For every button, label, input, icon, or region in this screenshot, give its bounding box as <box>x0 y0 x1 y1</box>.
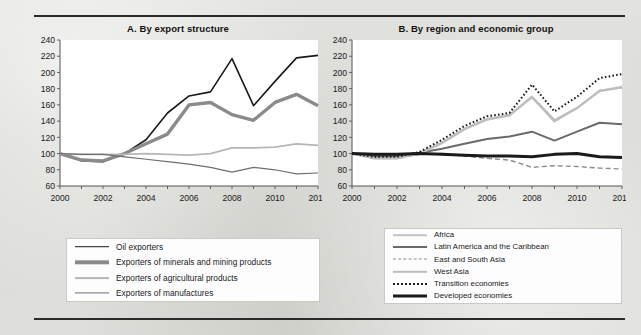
legend-line-swatch <box>75 257 109 267</box>
svg-text:200: 200 <box>41 68 56 78</box>
svg-text:2010: 2010 <box>265 193 284 203</box>
svg-text:200: 200 <box>333 68 348 78</box>
svg-text:2002: 2002 <box>93 193 112 203</box>
svg-text:180: 180 <box>41 84 56 94</box>
panel-a-plot: 6080100120140160180200220240200020022004… <box>34 36 322 216</box>
svg-text:2002: 2002 <box>387 193 406 203</box>
panel-b-legend: AfricaLatin America and the CaribbeanEas… <box>384 228 622 304</box>
chart-panel-a: A. By export structure 60801001201401601… <box>34 22 322 222</box>
svg-text:160: 160 <box>41 100 56 110</box>
legend-label: Transition economies <box>434 280 509 288</box>
svg-text:80: 80 <box>45 165 55 175</box>
svg-text:2006: 2006 <box>179 193 198 203</box>
chart-panel-b: B. By region and economic group 60801001… <box>326 22 626 222</box>
svg-text:120: 120 <box>333 133 348 143</box>
legend-label: West Asia <box>434 268 469 276</box>
svg-text:2012: 2012 <box>612 193 626 203</box>
legend-label: Exporters of minerals and mining product… <box>116 258 271 266</box>
legend-label: Exporters of agricultural products <box>116 274 238 282</box>
svg-text:140: 140 <box>41 116 56 126</box>
svg-text:2004: 2004 <box>136 193 155 203</box>
legend-line-swatch <box>393 279 427 289</box>
svg-text:2008: 2008 <box>522 193 541 203</box>
svg-text:180: 180 <box>333 84 348 94</box>
svg-text:2006: 2006 <box>477 193 496 203</box>
legend-label: Oil exporters <box>116 243 163 251</box>
top-rule <box>34 15 625 17</box>
legend-line-swatch <box>75 273 109 283</box>
panel-a-legend-item: Oil exporters <box>67 239 319 255</box>
svg-text:2010: 2010 <box>567 193 586 203</box>
legend-label: Developed economies <box>434 292 512 300</box>
svg-text:100: 100 <box>41 149 56 159</box>
panel-b-title: B. By region and economic group <box>326 22 626 36</box>
legend-label: Latin America and the Caribbean <box>434 243 549 251</box>
panel-b-plot: 6080100120140160180200220240200020022004… <box>326 36 626 216</box>
svg-text:240: 240 <box>41 36 56 45</box>
svg-text:220: 220 <box>41 51 56 61</box>
svg-text:2000: 2000 <box>342 193 361 203</box>
legend-line-swatch <box>75 288 109 298</box>
svg-text:80: 80 <box>337 165 347 175</box>
svg-text:2008: 2008 <box>222 193 241 203</box>
panel-b-legend-item: East and South Asia <box>385 253 621 265</box>
panel-a-legend-item: Exporters of manufactures <box>67 286 319 302</box>
svg-text:2012: 2012 <box>308 193 322 203</box>
svg-text:220: 220 <box>333 51 348 61</box>
legend-line-swatch <box>393 230 427 240</box>
svg-text:160: 160 <box>333 100 348 110</box>
panel-a-legend-item: Exporters of minerals and mining product… <box>67 255 319 271</box>
panel-b-legend-item: Latin America and the Caribbean <box>385 241 621 253</box>
svg-text:240: 240 <box>333 36 348 45</box>
legend-label: East and South Asia <box>434 256 505 264</box>
panel-b-legend-item: Africa <box>385 229 621 241</box>
svg-text:2004: 2004 <box>432 193 451 203</box>
panel-a-svg: 6080100120140160180200220240200020022004… <box>34 36 322 216</box>
svg-text:60: 60 <box>45 181 55 191</box>
legend-line-swatch <box>393 291 427 301</box>
legend-label: Africa <box>434 231 454 239</box>
svg-text:60: 60 <box>337 181 347 191</box>
legend-line-swatch <box>75 242 109 252</box>
panel-b-svg: 6080100120140160180200220240200020022004… <box>326 36 626 216</box>
panel-a-legend-item: Exporters of agricultural products <box>67 270 319 286</box>
legend-line-swatch <box>393 254 427 264</box>
panel-a-title: A. By export structure <box>34 22 322 36</box>
panel-b-legend-item: West Asia <box>385 266 621 278</box>
legend-line-swatch <box>393 267 427 277</box>
bottom-rule <box>34 318 625 320</box>
panel-b-legend-item: Transition economies <box>385 278 621 290</box>
svg-text:140: 140 <box>333 116 348 126</box>
svg-text:120: 120 <box>41 133 56 143</box>
svg-text:100: 100 <box>333 149 348 159</box>
panel-a-legend: Oil exportersExporters of minerals and m… <box>66 238 320 302</box>
svg-text:2000: 2000 <box>50 193 69 203</box>
legend-label: Exporters of manufactures <box>116 289 213 297</box>
panel-b-legend-item: Developed economies <box>385 290 621 302</box>
legend-line-swatch <box>393 242 427 252</box>
